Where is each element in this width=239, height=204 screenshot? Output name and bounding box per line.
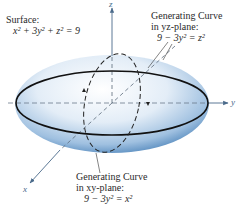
yz-curve-equation: 9 − 3y² = z²: [151, 32, 222, 43]
y-axis-label: y: [231, 97, 235, 107]
yz-curve-plane: in yz-plane:: [151, 21, 222, 32]
x-axis: [30, 150, 60, 183]
xy-curve-title: Generating Curve: [76, 171, 147, 182]
yz-curve-title: Generating Curve: [151, 10, 222, 21]
xy-curve-plane: in xy-plane:: [76, 182, 147, 193]
surface-label: Surface: x² + 3y² + z² = 9: [6, 14, 80, 36]
z-axis-label: z: [109, 0, 113, 9]
xy-curve-equation: 9 − 3y² = x²: [76, 193, 147, 204]
yz-curve-label: Generating Curve in yz-plane: 9 − 3y² = …: [151, 10, 222, 43]
surface-title: Surface:: [6, 14, 80, 25]
ellipsoid-surface: [15, 55, 209, 153]
x-axis-label: x: [23, 184, 27, 194]
leader-line-xy: [96, 153, 100, 173]
surface-equation: x² + 3y² + z² = 9: [6, 25, 80, 36]
xy-curve-label: Generating Curve in xy-plane: 9 − 3y² = …: [76, 171, 147, 204]
